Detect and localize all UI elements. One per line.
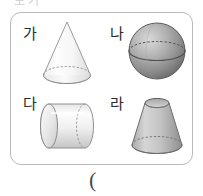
shape-label-ra: 라 <box>110 97 124 112</box>
top-cutoff-text-strip: 보기 <box>0 0 203 9</box>
shape-label-na: 나 <box>110 27 124 42</box>
cylinder-figure <box>35 95 99 153</box>
shape-cell-ra[interactable]: 라 <box>100 89 191 165</box>
shape-cell-na[interactable]: 나 <box>100 15 191 91</box>
cone-figure <box>35 19 99 91</box>
sphere-figure <box>126 19 188 83</box>
answer-parenthesis: ( <box>89 169 96 191</box>
truncated-cone-figure <box>126 93 188 159</box>
shape-choice-box: 가 나 <box>10 12 193 165</box>
cutoff-label: 보기 <box>14 0 42 8</box>
shape-cell-ga[interactable]: 가 <box>11 15 102 91</box>
shape-cell-da[interactable]: 다 <box>11 89 102 165</box>
